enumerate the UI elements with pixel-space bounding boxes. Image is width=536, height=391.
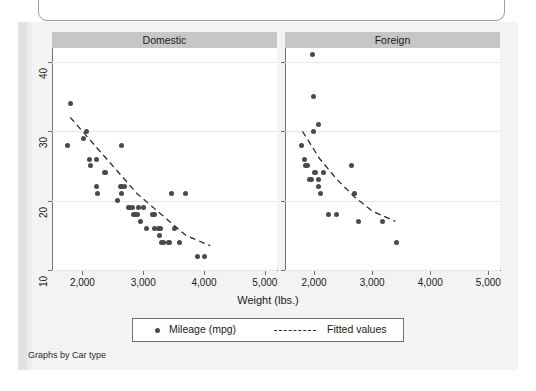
scanned-page: Domestic Foreign Weight (lbs.) Mileage (… xyxy=(18,22,518,370)
fitted-values-line-foreign xyxy=(18,22,518,370)
stata-graph: Domestic Foreign Weight (lbs.) Mileage (… xyxy=(18,22,518,370)
top-window-chrome xyxy=(38,0,505,21)
